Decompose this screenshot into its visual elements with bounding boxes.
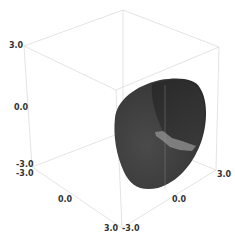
x-tick-left: -3.0	[16, 169, 34, 178]
x-tick-right: 3.0	[104, 224, 118, 233]
x-tick-mid: 0.0	[58, 195, 72, 204]
y-tick-mid: 0.0	[172, 195, 186, 204]
3d-plot[interactable]	[0, 0, 235, 239]
z-tick-bottom: -3.0	[16, 160, 34, 169]
surface	[114, 79, 206, 190]
y-tick-left: -3.0	[122, 224, 140, 233]
z-tick-mid: 0.0	[14, 103, 28, 112]
y-tick-right: 3.0	[217, 170, 231, 179]
z-tick-top: 3.0	[9, 41, 23, 50]
